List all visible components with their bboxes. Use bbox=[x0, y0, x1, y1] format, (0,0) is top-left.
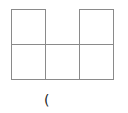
square-top-left bbox=[11, 9, 46, 45]
square-bottom-middle bbox=[45, 44, 80, 80]
figure-caption: ( bbox=[44, 93, 49, 107]
square-bottom-right bbox=[79, 44, 114, 80]
square-top-right bbox=[79, 9, 114, 45]
square-bottom-left bbox=[11, 44, 46, 80]
